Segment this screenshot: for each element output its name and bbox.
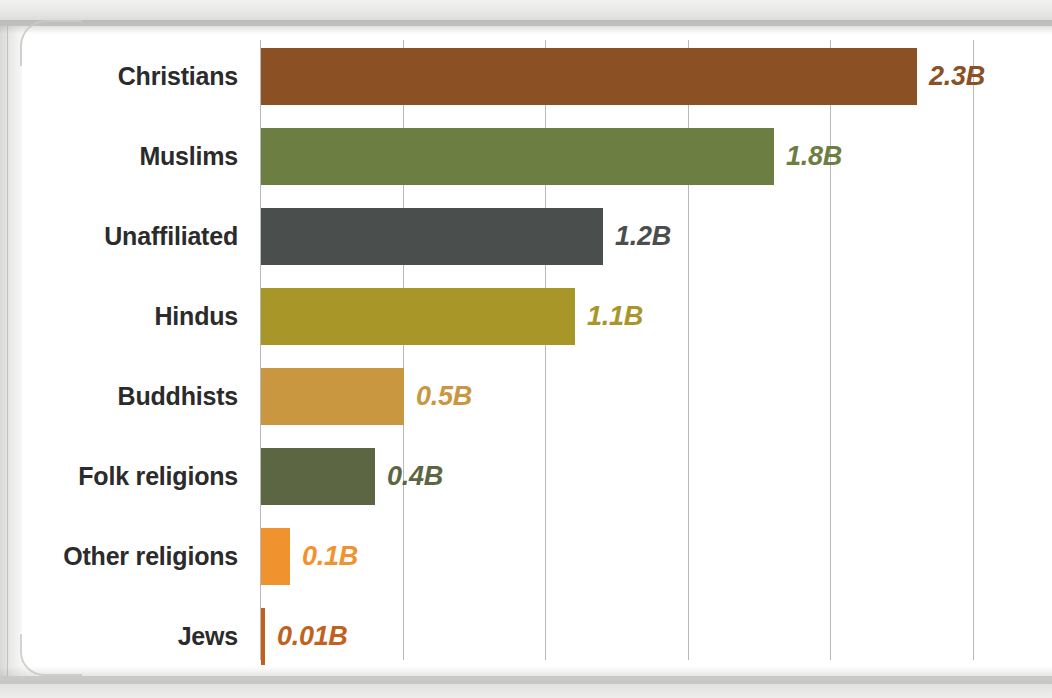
- bar-jews[interactable]: [261, 608, 265, 665]
- bar-muslims[interactable]: [261, 128, 774, 185]
- bar-row: Christians2.3B: [0, 48, 1052, 128]
- bar-value-label: 0.5B: [416, 368, 472, 425]
- bar-row: Jews0.01B: [0, 608, 1052, 688]
- bar-folk-religions[interactable]: [261, 448, 375, 505]
- bar-row: Other religions0.1B: [0, 528, 1052, 608]
- scanned-page: Christians2.3BMuslims1.8BUnaffiliated1.2…: [0, 0, 1052, 698]
- bar-row: Folk religions0.4B: [0, 448, 1052, 528]
- bar-row: Unaffiliated1.2B: [0, 208, 1052, 288]
- bar-buddhists[interactable]: [261, 368, 404, 425]
- bar-rows: Christians2.3BMuslims1.8BUnaffiliated1.2…: [0, 0, 1052, 698]
- category-label: Muslims: [20, 128, 238, 185]
- bar-value-label: 2.3B: [929, 48, 985, 105]
- category-label: Buddhists: [20, 368, 238, 425]
- bar-value-label: 0.1B: [302, 528, 358, 585]
- bar-christians[interactable]: [261, 48, 917, 105]
- bar-row: Hindus1.1B: [0, 288, 1052, 368]
- bar-unaffiliated[interactable]: [261, 208, 603, 265]
- category-label: Unaffiliated: [20, 208, 238, 265]
- bar-row: Muslims1.8B: [0, 128, 1052, 208]
- bar-value-label: 1.2B: [615, 208, 671, 265]
- bar-other-religions[interactable]: [261, 528, 290, 585]
- bar-value-label: 1.1B: [587, 288, 643, 345]
- category-label: Jews: [20, 608, 238, 665]
- category-label: Hindus: [20, 288, 238, 345]
- category-label: Folk religions: [20, 448, 238, 505]
- bar-value-label: 0.01B: [277, 608, 348, 665]
- bar-value-label: 0.4B: [387, 448, 443, 505]
- bar-hindus[interactable]: [261, 288, 575, 345]
- category-label: Christians: [20, 48, 238, 105]
- bar-value-label: 1.8B: [786, 128, 842, 185]
- bar-row: Buddhists0.5B: [0, 368, 1052, 448]
- category-label: Other religions: [20, 528, 238, 585]
- bar-chart: Christians2.3BMuslims1.8BUnaffiliated1.2…: [0, 0, 1052, 698]
